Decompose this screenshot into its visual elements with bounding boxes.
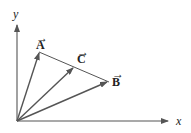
vector-diagram: y x → A → C → B — [0, 0, 191, 133]
connector-a-b — [39, 52, 109, 82]
y-axis-label: y — [12, 7, 19, 21]
vector-c-label: C — [77, 52, 86, 66]
vector-b — [17, 82, 107, 121]
x-axis-label: x — [175, 114, 182, 128]
vector-a-label: A — [36, 38, 45, 52]
vector-b-label: B — [112, 75, 120, 89]
